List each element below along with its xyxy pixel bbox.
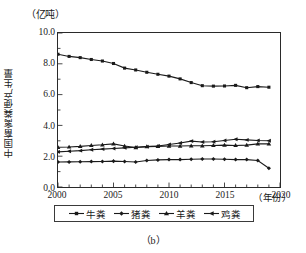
- y-tick-label: 2.0: [43, 152, 55, 162]
- legend-label: 猪粪: [131, 207, 151, 221]
- y-axis-unit-label: （亿吨）: [26, 6, 64, 21]
- x-axis-tick-labels: 20002005201020152020: [57, 190, 281, 204]
- y-tick-label: 4.0: [43, 121, 55, 131]
- legend-item-鸡粪[interactable]: 鸡粪: [203, 207, 241, 221]
- x-tick-label: 2015: [216, 190, 235, 200]
- y-tick-label: 8.0: [43, 58, 55, 68]
- y-axis-tick-labels: 0.02.04.06.08.010.0: [24, 32, 55, 188]
- x-tick-label: 2010: [160, 190, 179, 200]
- y-axis-title: 中国畜禽粪便产生量: [4, 38, 18, 188]
- plot-area: [57, 32, 281, 188]
- square-marker-icon: [68, 209, 85, 218]
- figure-caption: （b）: [0, 232, 306, 247]
- y-tick-label: 6.0: [43, 89, 55, 99]
- left-triangle-marker-icon: [203, 209, 220, 218]
- chart-legend: 牛粪猪粪羊粪鸡粪: [54, 205, 254, 222]
- diamond-marker-icon: [113, 209, 130, 218]
- x-axis-label: （年份）: [253, 190, 291, 204]
- y-tick-label: 10.0: [38, 27, 55, 37]
- legend-item-猪粪[interactable]: 猪粪: [113, 207, 151, 221]
- x-tick-label: 2005: [104, 190, 123, 200]
- series-猪粪: [58, 157, 271, 170]
- plot-svg: [58, 33, 280, 187]
- chart-figure: （亿吨） 中国畜禽粪便产生量 0.02.04.06.08.010.0 20002…: [0, 0, 306, 253]
- series-牛粪: [58, 53, 270, 89]
- triangle-marker-icon: [158, 209, 175, 218]
- legend-item-牛粪[interactable]: 牛粪: [68, 207, 106, 221]
- legend-label: 羊粪: [176, 207, 196, 221]
- x-tick-label: 2000: [48, 190, 67, 200]
- legend-label: 牛粪: [86, 207, 106, 221]
- legend-label: 鸡粪: [221, 207, 241, 221]
- legend-item-羊粪[interactable]: 羊粪: [158, 207, 196, 221]
